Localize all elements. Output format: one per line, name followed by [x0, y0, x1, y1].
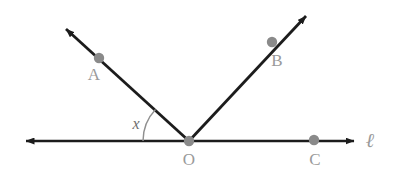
angle-arc-x: [143, 110, 156, 142]
point-dot-o: [184, 136, 194, 146]
point-label-o: O: [183, 150, 195, 169]
point-dot-b: [267, 37, 277, 47]
point-label-c: C: [309, 150, 320, 169]
point-dot-a: [94, 53, 104, 63]
point-dot-c: [309, 135, 319, 145]
line-label-l: ℓ: [366, 129, 375, 151]
geometry-canvas: O A B C x ℓ: [0, 0, 403, 182]
point-label-a: A: [88, 65, 101, 84]
ray-ob: [189, 16, 306, 141]
ray-oa: [66, 29, 189, 141]
geometry-diagram: O A B C x ℓ: [0, 0, 403, 182]
point-label-b: B: [271, 51, 282, 70]
angle-label-x: x: [131, 115, 139, 132]
